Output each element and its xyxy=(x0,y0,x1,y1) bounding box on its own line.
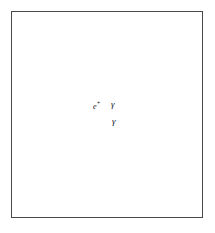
figure-border xyxy=(11,11,203,218)
label-photon-lower: γ xyxy=(112,117,116,126)
figure-root: e+ γ γ xyxy=(0,0,215,233)
label-positron-charge: + xyxy=(97,100,101,106)
label-photon-upper: γ xyxy=(111,100,115,109)
label-positron: e+ xyxy=(93,100,101,111)
